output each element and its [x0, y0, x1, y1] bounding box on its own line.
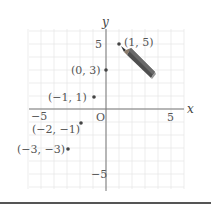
point-0-3: [104, 68, 108, 72]
point-label-neg2-neg1: (−2, −1): [32, 123, 80, 136]
x-axis-label: x: [187, 102, 194, 116]
point-neg3-neg3: [66, 147, 70, 151]
tick-y-pos5: 5: [95, 38, 102, 51]
point-label-0-3: (0, 3): [71, 64, 101, 77]
coordinate-plane: x y O −5 5 5 −5 (1, 5) (0, 3) (−1, 1) (−…: [0, 0, 211, 207]
point-label-1-5: (1, 5): [124, 36, 154, 49]
tick-x-pos5: 5: [167, 111, 174, 124]
point-label-neg3-neg3: (−3, −3): [17, 143, 65, 156]
y-axis-label: y: [101, 15, 109, 29]
point-neg1-1: [92, 95, 96, 99]
point-1-5: [117, 42, 121, 46]
tick-x-neg5: −5: [31, 110, 47, 123]
pencil-icon: [121, 46, 156, 79]
bottom-rule: [0, 202, 211, 204]
origin-label: O: [96, 111, 105, 124]
tick-y-neg5: −5: [91, 168, 107, 181]
point-label-neg1-1: (−1, 1): [48, 91, 87, 104]
